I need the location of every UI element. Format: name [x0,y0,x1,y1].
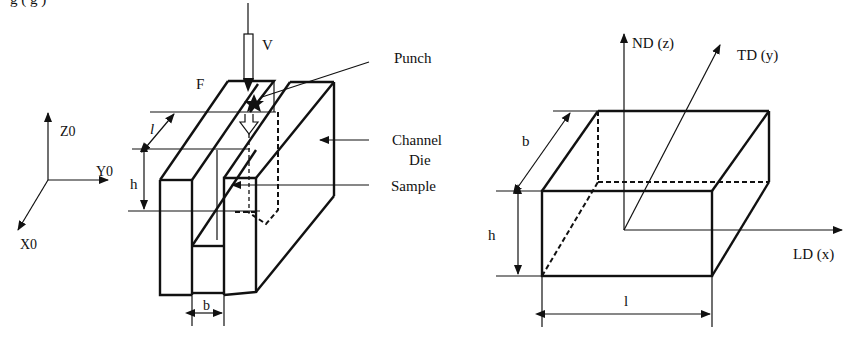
sample-dimensions: b h l [488,111,712,327]
z0-label: Z0 [60,124,76,139]
td-label: TD (y) [737,47,778,64]
ld-label: LD (x) [793,246,834,263]
dim-b-label: b [522,133,530,149]
x0-axis-arrow [18,180,48,230]
global-axes: Z0 Y0 X0 [18,113,113,252]
td-axis-arrow [624,45,720,230]
channel-label: Channel [392,132,442,148]
dim-h-label: h [488,227,496,243]
punch-label: Punch [394,50,432,66]
punch-leader [262,62,369,97]
caption-fragment: g ( g ) [10,0,46,8]
die-label: Die [409,152,431,168]
dim-l-label: l [150,121,154,137]
dim-b-arrow [518,113,570,187]
dim-b-label: b [203,298,210,313]
right-figure: ND (z) TD (y) LD (x) b h l [488,34,842,327]
svg-text:g ( g: g ( g ) [10,0,46,8]
left-figure: Z0 Y0 X0 V F [18,3,442,326]
nd-label: ND (z) [632,35,674,52]
channel-die-diagram: g ( g ) Z0 Y0 X0 V F [0,0,851,339]
channel-die-left-wall [160,81,258,295]
velocity-arrow: V [243,3,273,92]
x0-label: X0 [20,237,37,252]
force-label: F [196,76,204,92]
sample-label: Sample [391,178,436,194]
sample-axes: ND (z) TD (y) LD (x) [624,34,842,263]
velocity-label: V [262,37,273,53]
dim-h-label: h [130,176,138,192]
y0-label: Y0 [96,164,113,179]
dim-l-label: l [624,293,628,309]
sample-box [542,111,769,276]
